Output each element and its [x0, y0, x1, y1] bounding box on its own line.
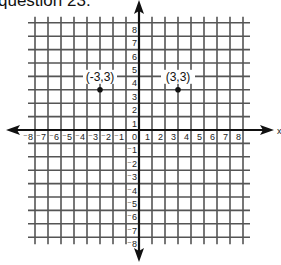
y-tick-label: 2 — [132, 105, 137, 115]
y-tick-label: 7 — [132, 38, 137, 48]
x-tick-label: 4 — [184, 132, 189, 142]
x-tick-label: 5 — [197, 132, 202, 142]
y-tick-label: ⁻6 — [127, 212, 137, 222]
y-tick-label: 4 — [132, 78, 137, 88]
y-tick-label: ⁻7 — [127, 226, 137, 236]
x-tick-label: ⁻8 — [23, 132, 33, 142]
data-point — [97, 87, 103, 93]
y-tick-label: ⁻8 — [127, 239, 137, 249]
x-tick-label: ⁻1 — [114, 132, 124, 142]
x-axis-label: x — [277, 126, 281, 136]
x-tick-label: ⁻4 — [75, 132, 85, 142]
x-tick-label: 3 — [171, 132, 176, 142]
y-tick-label: ⁻1 — [127, 145, 137, 155]
y-tick-label: ⁻3 — [127, 172, 137, 182]
x-tick-label: ⁻3 — [88, 132, 98, 142]
data-point — [175, 87, 181, 93]
y-tick-label: ⁻4 — [127, 186, 137, 196]
x-tick-label: 6 — [210, 132, 215, 142]
y-tick-label: 8 — [132, 25, 137, 35]
coordinate-plane: x⁻8⁻7⁻6⁻5⁻4⁻3⁻2⁻101234567887654321⁻1⁻2⁻3… — [0, 0, 281, 265]
x-tick-label: ⁻7 — [36, 132, 46, 142]
x-tick-label: 0 — [132, 132, 137, 142]
x-tick-label: 1 — [145, 132, 150, 142]
y-tick-label: 1 — [132, 119, 137, 129]
x-tick-label: ⁻2 — [101, 132, 111, 142]
y-tick-label: ⁻2 — [127, 159, 137, 169]
y-tick-label: 3 — [132, 92, 137, 102]
point-label: (-3,3) — [86, 70, 115, 84]
x-tick-label: 8 — [236, 132, 241, 142]
x-tick-label: 2 — [158, 132, 163, 142]
y-tick-label: ⁻5 — [127, 199, 137, 209]
x-tick-label: ⁻6 — [49, 132, 59, 142]
y-tick-label: 5 — [132, 65, 137, 75]
y-tick-label: 6 — [132, 52, 137, 62]
x-tick-label: ⁻5 — [62, 132, 72, 142]
x-tick-label: 7 — [223, 132, 228, 142]
point-label: (3,3) — [166, 70, 191, 84]
